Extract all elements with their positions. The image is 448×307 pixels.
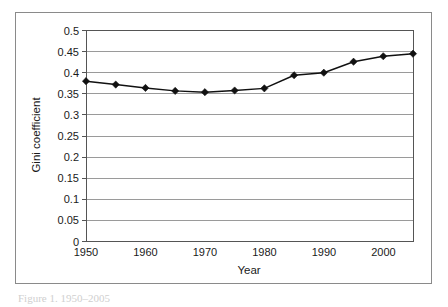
figure-caption: Figure 1. 1950–2005	[18, 292, 318, 304]
x-tick-label-1960: 1960	[133, 246, 157, 258]
y-tick-label-3: 0.15	[58, 172, 79, 184]
y-axis-title: Gini coefficient	[30, 97, 42, 173]
y-tick-label-4: 0.2	[64, 151, 79, 163]
chart-figure: 0.5 0.45 0.4 0.35 0.3 0.2	[0, 0, 448, 307]
x-tick-label-2000: 2000	[371, 246, 395, 258]
chart-plot-frame: 0.5 0.45 0.4 0.35 0.3 0.2	[15, 12, 432, 284]
x-tick-label-1950: 1950	[74, 246, 98, 258]
y-tick-label-2: 0.1	[64, 193, 79, 205]
y-tick-label-1: 0.05	[58, 214, 79, 226]
x-tick-label-1980: 1980	[252, 246, 276, 258]
x-tick-label-1970: 1970	[193, 246, 217, 258]
line-chart: 0.5 0.45 0.4 0.35 0.3 0.2	[16, 13, 431, 283]
y-tick-label-9: 0.45	[58, 46, 79, 58]
x-axis-title: Year	[237, 264, 260, 276]
y-tick-label-10: 0.5	[64, 25, 79, 37]
y-tick-label-8: 0.4	[64, 67, 79, 79]
figure-caption-text: Figure 1. 1950–2005	[18, 292, 318, 304]
y-tick-label-7: 0.35	[58, 88, 79, 100]
y-tick-label-5: 0.25	[58, 130, 79, 142]
y-tick-label-6: 0.3	[64, 109, 79, 121]
x-axis: 1950 1960 1970 1980 1990 2000	[74, 246, 396, 258]
x-tick-label-1990: 1990	[312, 246, 336, 258]
